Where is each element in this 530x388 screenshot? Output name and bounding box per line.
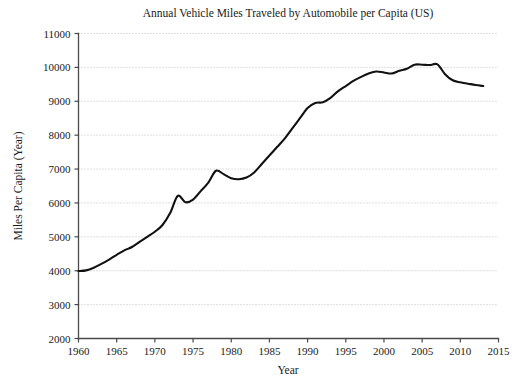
y-axis-title: Miles Per Capita (Year)	[12, 131, 25, 240]
x-tick-label-2000: 2000	[373, 345, 396, 357]
x-axis-title: Year	[277, 364, 298, 376]
y-tick-label-9000: 9000	[49, 95, 72, 107]
x-tick-label-2005: 2005	[411, 345, 434, 357]
x-tick-label-1965: 1965	[106, 345, 129, 357]
x-tick-label-1995: 1995	[335, 345, 358, 357]
y-tick-label-6000: 6000	[49, 197, 72, 209]
y-tick-label-8000: 8000	[49, 129, 72, 141]
x-tick-label-1975: 1975	[182, 345, 205, 357]
x-tick-label-1980: 1980	[220, 345, 243, 357]
chart-title: Annual Vehicle Miles Traveled by Automob…	[143, 7, 434, 20]
x-tick-label-1990: 1990	[297, 345, 320, 357]
y-tick-label-3000: 3000	[49, 299, 72, 311]
x-tick-label-1960: 1960	[68, 345, 91, 357]
y-tick-label-2000: 2000	[49, 333, 72, 345]
chart-figure: Annual Vehicle Miles Traveled by Automob…	[0, 0, 530, 388]
x-tick-label-2015: 2015	[488, 345, 511, 357]
chart-canvas: Annual Vehicle Miles Traveled by Automob…	[0, 0, 530, 388]
y-tick-label-10000: 10000	[43, 61, 71, 73]
y-tick-label-5000: 5000	[49, 231, 72, 243]
chart-background	[0, 0, 530, 388]
x-tick-label-1970: 1970	[144, 345, 167, 357]
y-tick-label-4000: 4000	[49, 265, 72, 277]
y-tick-label-7000: 7000	[49, 163, 72, 175]
y-tick-label-11000: 11000	[43, 28, 71, 40]
x-tick-label-1985: 1985	[258, 345, 281, 357]
x-tick-label-2010: 2010	[449, 345, 472, 357]
